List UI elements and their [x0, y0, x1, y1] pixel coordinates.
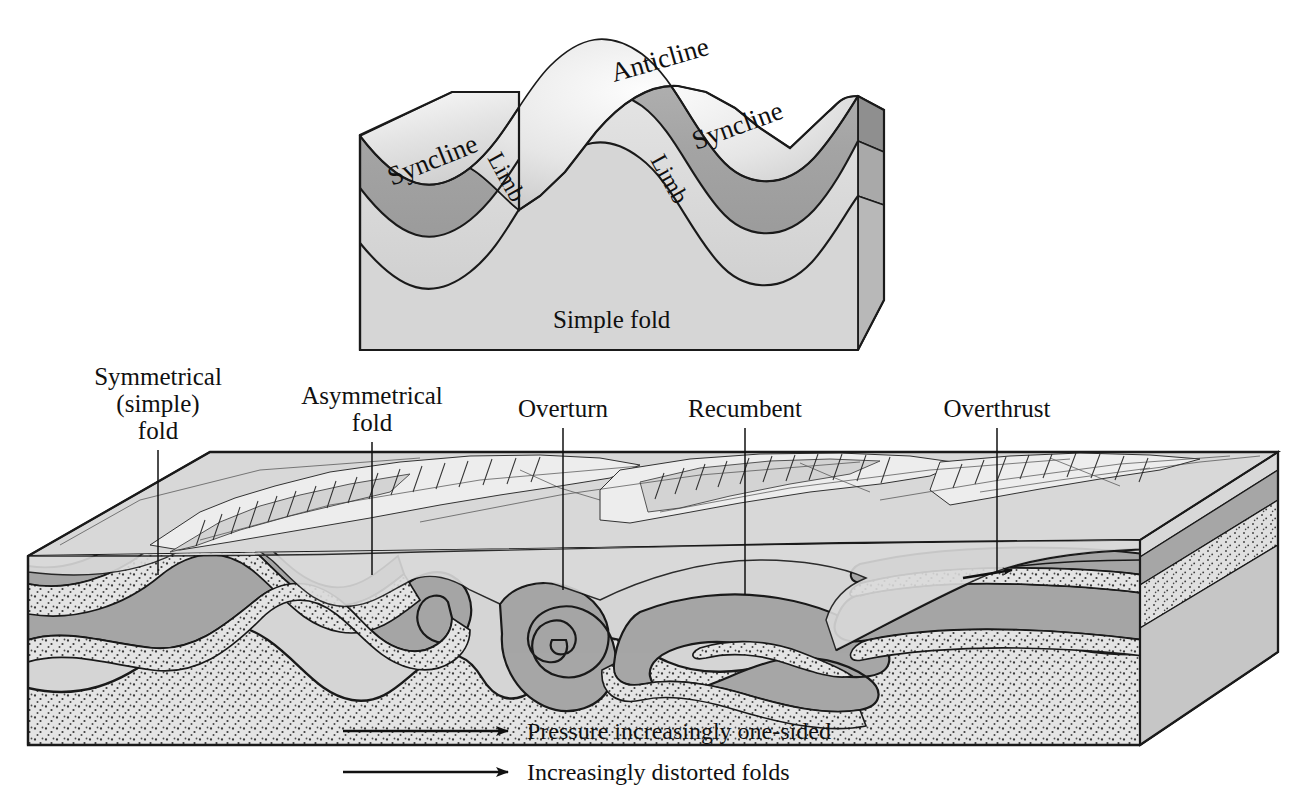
- callout-recumbent-label: Recumbent: [688, 395, 802, 422]
- label-simple-fold: Simple fold: [553, 306, 671, 333]
- callout-symmetrical-line1: Symmetrical: [94, 363, 222, 390]
- geology-diagram-svg: Syncline Limb Anticline Limb Syncline Si…: [0, 0, 1303, 810]
- terrain-surface: [28, 452, 1278, 556]
- pressure-arrow-label: Pressure increasingly one-sided: [527, 718, 831, 744]
- callout-asymmetrical-line2: fold: [352, 409, 393, 436]
- callout-symmetrical-line3: fold: [138, 417, 179, 444]
- callout-symmetrical-line2: (simple): [116, 390, 199, 418]
- callout-overturn-label: Overturn: [518, 395, 609, 422]
- callout-asymmetrical-line1: Asymmetrical: [301, 382, 443, 409]
- progressive-deformation-block: [28, 452, 1278, 750]
- figure-canvas: Syncline Limb Anticline Limb Syncline Si…: [0, 0, 1303, 810]
- distortion-arrow-label: Increasingly distorted folds: [527, 759, 790, 785]
- callout-overthrust-label: Overthrust: [944, 395, 1051, 422]
